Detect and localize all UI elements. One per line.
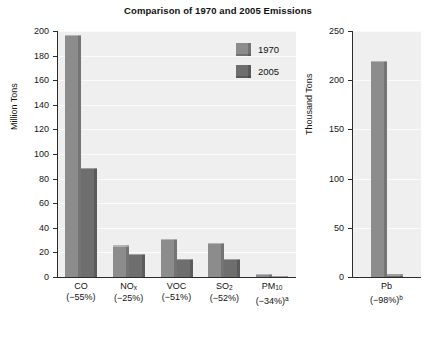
bar-top-highlight	[272, 276, 288, 278]
y-tick	[53, 80, 57, 81]
category-label-PM10: PM10(−34%)a	[238, 281, 306, 307]
bar-CO-1970	[65, 35, 81, 277]
bar-side-shade	[237, 259, 240, 277]
y-tick-label: 50	[310, 224, 344, 233]
bar-top-highlight	[371, 61, 387, 63]
y-tick-label: 180	[15, 52, 49, 61]
y-tick-label: 60	[15, 199, 49, 208]
y-tick	[53, 56, 57, 57]
bar-side-shade	[221, 243, 224, 277]
bar-SO2-2005	[224, 259, 240, 277]
y-tick-label: 20	[15, 248, 49, 257]
y-tick	[53, 129, 57, 130]
main-y-axis-line	[57, 31, 58, 278]
legend-item-1970: 1970	[236, 42, 304, 60]
gridline	[57, 129, 296, 130]
y-tick	[348, 179, 352, 180]
category-name: PM10	[238, 281, 306, 293]
chart-title: Comparison of 1970 and 2005 Emissions	[0, 5, 436, 16]
lead-y-axis-line	[352, 31, 353, 278]
bar-CO-2005	[81, 168, 97, 277]
bar-Pb-2005	[387, 274, 403, 277]
legend-swatch-2005	[236, 65, 251, 78]
y-tick-label: 150	[310, 125, 344, 134]
gridline	[57, 31, 296, 32]
bar-side-shade	[78, 35, 81, 277]
y-tick	[53, 31, 57, 32]
bar-side-shade	[190, 259, 193, 277]
category-label-Pb: Pb(−98%)b	[353, 281, 421, 306]
y-tick-label: 160	[15, 76, 49, 85]
bar-Pb-1970	[371, 61, 387, 277]
legend-swatch-1970	[236, 43, 251, 56]
y-tick-label: 200	[310, 76, 344, 85]
y-tick	[348, 129, 352, 130]
gridline	[57, 105, 296, 106]
y-tick-label: 120	[15, 125, 49, 134]
bar-NOx-1970	[113, 245, 129, 277]
y-tick-label: 0	[15, 273, 49, 282]
bar-top-highlight	[256, 274, 272, 276]
bar-side-shade	[174, 239, 177, 277]
gridline	[352, 129, 421, 130]
bar-side-shade	[384, 61, 387, 277]
bar-top-highlight	[161, 239, 177, 241]
bar-top-highlight	[177, 259, 193, 261]
bar-top-highlight	[81, 168, 97, 170]
y-tick	[348, 80, 352, 81]
gridline	[352, 179, 421, 180]
y-tick	[53, 228, 57, 229]
chart-legend: 1970 2005	[236, 42, 304, 86]
footnote-marker: a	[285, 295, 289, 302]
legend-item-2005: 2005	[236, 64, 304, 82]
main-y-axis-title: Million Tons	[9, 83, 19, 130]
y-tick	[53, 203, 57, 204]
gridline	[352, 228, 421, 229]
y-tick-label: 100	[310, 175, 344, 184]
y-tick-label: 100	[15, 150, 49, 159]
bar-VOC-1970	[161, 239, 177, 277]
bar-NOx-2005	[129, 254, 145, 277]
legend-label-1970: 1970	[258, 44, 279, 55]
bar-top-highlight	[224, 259, 240, 261]
y-tick	[348, 277, 352, 278]
y-tick-label: 80	[15, 175, 49, 184]
category-change-percent: (−98%)b	[353, 292, 421, 306]
lead-x-axis-line	[352, 277, 421, 278]
emissions-chart-figure: Comparison of 1970 and 2005 Emissions 02…	[0, 0, 436, 339]
main-x-axis-line	[57, 277, 296, 278]
category-change-percent: (−34%)a	[238, 293, 306, 307]
y-tick-label: 40	[15, 224, 49, 233]
bar-PM10-1970	[256, 274, 272, 277]
bar-side-shade	[142, 254, 145, 277]
legend-swatch-bottom	[236, 76, 251, 79]
legend-label-2005: 2005	[258, 66, 279, 77]
footnote-marker: b	[399, 294, 403, 301]
bar-SO2-1970	[208, 243, 224, 277]
bar-side-shade	[94, 168, 97, 277]
y-tick	[53, 105, 57, 106]
y-tick	[53, 154, 57, 155]
y-tick	[348, 31, 352, 32]
gridline	[57, 154, 296, 155]
y-tick-label: 200	[15, 27, 49, 36]
y-tick	[348, 228, 352, 229]
y-tick-label: 250	[310, 27, 344, 36]
gridline	[352, 80, 421, 81]
legend-swatch-bottom	[236, 54, 251, 57]
category-name: Pb	[353, 281, 421, 292]
lead-plot-area	[352, 31, 421, 277]
y-tick	[53, 277, 57, 278]
lead-y-axis-title: Thousand Tons	[304, 74, 314, 135]
bar-VOC-2005	[177, 259, 193, 277]
bar-top-highlight	[208, 243, 224, 245]
bar-top-highlight	[387, 274, 403, 276]
bar-top-highlight	[65, 35, 81, 37]
y-tick-label: 0	[310, 273, 344, 282]
gridline	[352, 31, 421, 32]
bar-top-highlight	[113, 245, 129, 247]
bar-side-shade	[126, 245, 129, 277]
y-tick-label: 140	[15, 101, 49, 110]
y-tick	[53, 252, 57, 253]
bar-PM10-2005	[272, 276, 288, 277]
